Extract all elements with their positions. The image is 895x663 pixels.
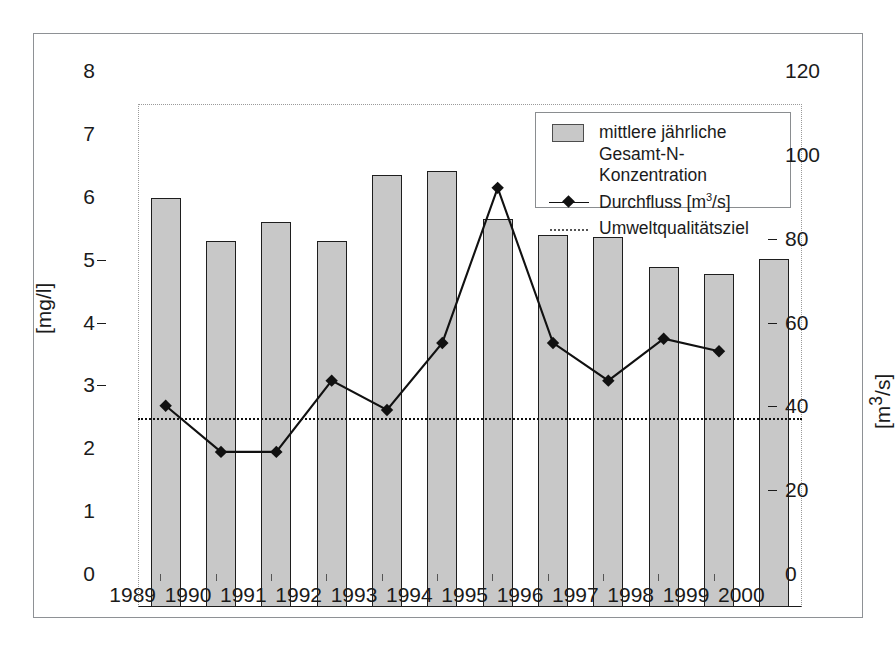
legend-item-umweltqualitaetsziel: Umweltqualitätsziel	[548, 218, 790, 240]
legend-label-durchfluss: Durchfluss [m3/s]	[599, 191, 731, 214]
x-tick-mark-1997	[548, 574, 549, 581]
y-tick-label-left-5: 5	[49, 249, 95, 270]
figure-outer-frame: [mg/l] [m3/s] mittlere jährliche Gesamt-…	[33, 33, 863, 618]
y-tick-label-left-1: 1	[49, 500, 95, 521]
x-tick-mark-1990	[160, 574, 161, 581]
y-tick-label-left-2: 2	[49, 437, 95, 458]
x-tick-mark-1992	[271, 574, 272, 581]
y-tick-mark-right-20	[768, 490, 777, 491]
legend-label-concentration: mittlere jährliche Gesamt-N-Konzentratio…	[599, 122, 790, 187]
x-tick-mark-1998	[603, 574, 604, 581]
x-tick-label-2000: 2000	[709, 583, 773, 607]
y-tick-label-left-4: 4	[49, 312, 95, 333]
y-tick-mark-right-60	[768, 323, 777, 324]
legend-swatch-square-icon	[548, 122, 592, 144]
y-tick-label-right-40: 40	[785, 395, 831, 416]
y-tick-label-right-80: 80	[785, 228, 831, 249]
y-tick-mark-right-40	[768, 406, 777, 407]
chart-legend: mittlere jährliche Gesamt-N-Konzentratio…	[535, 112, 791, 208]
y-tick-label-right-20: 20	[785, 479, 831, 500]
flow-marker-1999	[713, 345, 725, 357]
legend-label-umweltqualitaetsziel: Umweltqualitätsziel	[599, 218, 749, 240]
y-tick-label-left-7: 7	[49, 123, 95, 144]
legend-line-diamond-icon	[548, 191, 592, 213]
y-tick-mark-left-4	[97, 323, 106, 324]
y-axis-right-title: [m3/s]	[866, 374, 895, 429]
y-tick-label-right-100: 100	[785, 144, 831, 165]
legend-dotted-line-icon	[548, 218, 592, 240]
flow-marker-1996	[547, 337, 559, 349]
y-tick-label-left-0: 0	[49, 563, 95, 584]
y-tick-label-right-60: 60	[785, 312, 831, 333]
x-tick-mark-1994	[382, 574, 383, 581]
y-tick-mark-left-3	[97, 385, 106, 386]
x-tick-mark-1995	[437, 574, 438, 581]
y-tick-mark-right-80	[768, 239, 777, 240]
flow-marker-1995	[491, 182, 503, 194]
y-tick-label-left-8: 8	[49, 60, 95, 81]
legend-item-concentration: mittlere jährliche Gesamt-N-Konzentratio…	[548, 122, 790, 187]
legend-item-durchfluss: Durchfluss [m3/s]	[548, 191, 790, 214]
y-tick-label-right-120: 120	[785, 60, 831, 81]
y-tick-label-left-3: 3	[49, 374, 95, 395]
y-tick-label-left-6: 6	[49, 186, 95, 207]
x-tick-mark-2000	[714, 574, 715, 581]
x-tick-mark-1996	[492, 574, 493, 581]
y-tick-label-right-0: 0	[785, 563, 831, 584]
y-tick-mark-left-5	[97, 260, 106, 261]
x-tick-mark-1999	[658, 574, 659, 581]
x-tick-mark-1993	[326, 574, 327, 581]
x-tick-mark-1991	[216, 574, 217, 581]
